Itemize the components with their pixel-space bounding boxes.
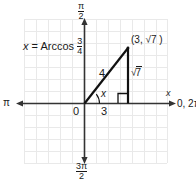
hypotenuse-label: 4 (99, 68, 105, 79)
vertex-point (127, 47, 130, 50)
vertical-leg-radicand: 7 (136, 66, 143, 78)
arccos-triangle-diagram: π 2 3π 2 π 0, 2π x x = Arccos 3 4 (3, √7… (0, 0, 196, 180)
right-angle-marker (118, 94, 128, 104)
vertical-leg-label: √7 (131, 68, 142, 78)
axis-label-bottom-numerator: 3π (76, 162, 87, 171)
axis-label-top-denominator: 2 (78, 11, 84, 21)
angle-label: x (101, 89, 106, 99)
axis-label-top-numerator: π (78, 2, 84, 11)
equation-function: Arccos (40, 40, 74, 52)
x-axis-right-arrow (169, 100, 176, 106)
triangle-hypotenuse (85, 48, 129, 104)
vertex-point-label: (3, √7 ) (131, 35, 163, 45)
x-axis-left-arrow (16, 100, 23, 106)
axis-label-right: 0, 2π (177, 99, 196, 109)
origin-label: 0 (73, 106, 79, 117)
axis-label-top-fraction: π 2 (78, 2, 84, 22)
axis-label-left: π (3, 98, 10, 108)
equation: x = Arccos 3 4 (23, 37, 82, 57)
vertex-point-label-text: (3, √7 ) (131, 34, 163, 45)
axis-label-bottom-fraction: 3π 2 (76, 162, 87, 180)
axis-label-bottom: 3π 2 (76, 162, 87, 180)
axis-name-x: x (166, 89, 171, 98)
base-label: 3 (101, 106, 107, 117)
reference-triangle (85, 48, 129, 104)
equation-fraction-numerator: 3 (77, 37, 82, 46)
equation-equals: = (32, 40, 38, 52)
equation-fraction-denominator: 4 (77, 46, 82, 56)
equation-fraction: 3 4 (77, 37, 82, 57)
axis-label-top: π 2 (78, 2, 84, 22)
equation-variable: x (23, 40, 29, 52)
axis-label-bottom-denominator: 2 (76, 171, 87, 180)
